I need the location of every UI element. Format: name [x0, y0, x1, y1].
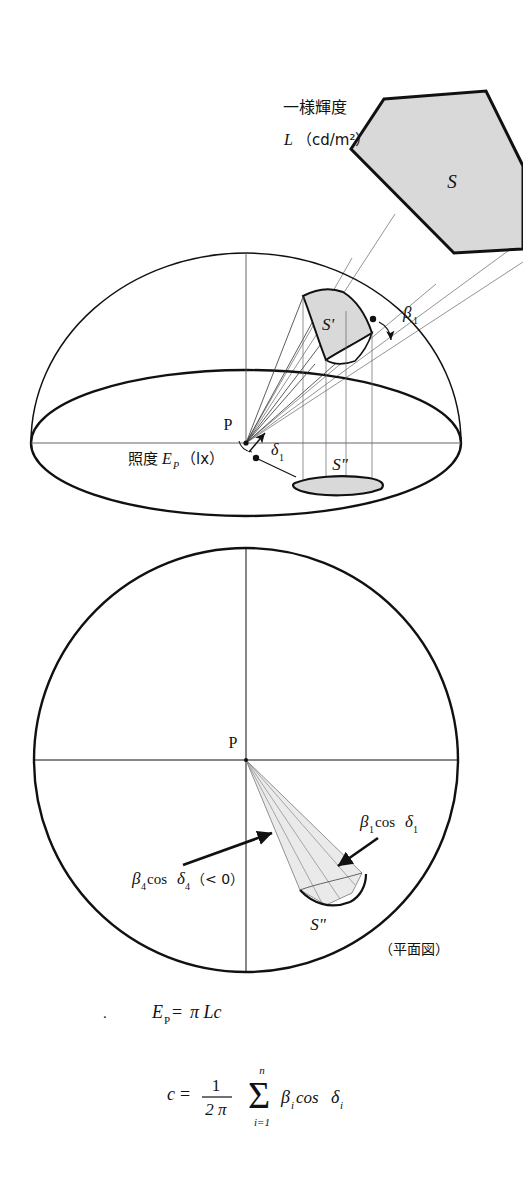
annotation-right-delta-sub: 1 — [413, 824, 418, 835]
formula-leading-dot: . — [103, 1005, 107, 1021]
point-p-marker — [243, 440, 248, 445]
annotation-left-cos: cos — [147, 871, 167, 887]
eq1-lhs-subscript: P — [164, 1014, 170, 1026]
base-projection-S-double-prime — [293, 476, 383, 495]
luminance-caption-jp: 一様輝度 — [283, 98, 347, 117]
source-surface-label-S: S — [447, 171, 457, 192]
figure-page: P β 1 δ 1 S' S" 照度 E P （lx） — [0, 0, 523, 1204]
eq2-term-cos: cos — [296, 1088, 319, 1107]
eq2-term-beta: β — [280, 1087, 290, 1107]
eq2-fraction-denominator: 2 π — [205, 1100, 227, 1119]
plan-label-s-double-prime: S" — [310, 915, 327, 934]
lower-diagram: P S" β 1 cos δ 1 β 4 cos δ 4 （< 0） — [34, 548, 458, 972]
annotation-left-beta-sub: 4 — [141, 881, 146, 892]
illuminance-label-symbol: E — [161, 450, 172, 467]
eq1-rhs: π Lc — [190, 1002, 222, 1022]
upper-diagram: P β 1 δ 1 S' S" 照度 E P （lx） — [31, 91, 523, 516]
annotation-left-arrow — [183, 833, 272, 865]
delta-angle-symbol: δ — [271, 441, 279, 458]
beta-angle-vertex-dot — [370, 316, 376, 322]
annotation-beta4-cos-delta4: β 4 cos δ 4 （< 0） — [131, 833, 272, 892]
delta-angle-leader-line — [258, 459, 296, 477]
eq2-sum-upper-limit: n — [259, 1064, 265, 1076]
luminance-unit: （cd/m²） — [297, 131, 370, 149]
eq1-lhs: E — [151, 1002, 163, 1022]
eq2-term-beta-subscript: i — [291, 1099, 294, 1111]
equation-illuminance: E P = π Lc — [151, 1002, 222, 1026]
eq2-lhs: c — [167, 1084, 175, 1104]
point-p-label-upper: P — [224, 416, 233, 433]
annotation-left-delta-sub: 4 — [185, 881, 190, 892]
eq2-sum-lower-limit: i=1 — [254, 1116, 270, 1128]
eq2-fraction-numerator: 1 — [212, 1076, 221, 1095]
base-label-s-double-prime: S" — [332, 455, 349, 474]
luminance-symbol: L — [283, 131, 293, 148]
delta-angle-subscript: 1 — [279, 452, 284, 463]
annotation-right-beta: β — [359, 812, 369, 831]
illuminance-label-jp: 照度 — [128, 450, 158, 468]
annotation-right-beta-sub: 1 — [369, 824, 374, 835]
source-surface-S — [351, 91, 523, 253]
delta-angle-vertex-dot — [253, 455, 259, 461]
annotation-beta1-cos-delta1: β 1 cos δ 1 — [338, 812, 418, 866]
formula-block: . E P = π Lc c = 1 2 π Σ n i=1 — [103, 1002, 343, 1128]
plan-wedge-sector — [246, 760, 362, 905]
point-p-marker-plan — [244, 758, 248, 762]
annotation-left-beta: β — [131, 869, 141, 888]
beta-angle-subscript: 1 — [413, 315, 418, 326]
plan-view-caption: （平面図） — [379, 941, 449, 957]
annotation-right-arrow — [338, 838, 378, 866]
illuminance-label-group: 照度 E P （lx） — [128, 450, 224, 471]
illuminance-label-subscript: P — [172, 460, 179, 471]
annotation-left-condition: （< 0） — [191, 871, 244, 887]
eq2-equals: = — [180, 1084, 190, 1104]
annotation-right-cos: cos — [375, 814, 395, 830]
illuminance-geometry-figure: P β 1 δ 1 S' S" 照度 E P （lx） — [0, 0, 523, 1204]
eq2-sum-symbol: Σ — [248, 1074, 270, 1116]
patch-label-s-prime: S' — [322, 315, 335, 334]
uniform-luminance-caption: 一様輝度 L （cd/m²） — [283, 98, 370, 149]
eq1-equals: = — [172, 1002, 182, 1022]
illuminance-label-unit: （lx） — [181, 450, 224, 468]
eq2-term-delta-subscript: i — [340, 1099, 343, 1111]
beta-angle-symbol: β — [402, 303, 412, 322]
eq2-term-delta: δ — [331, 1087, 340, 1107]
beta-angle-arc — [379, 322, 391, 340]
equation-configuration-factor: c = 1 2 π Σ n i=1 β i cos δ i — [167, 1064, 343, 1128]
point-p-label-plan: P — [229, 734, 238, 751]
